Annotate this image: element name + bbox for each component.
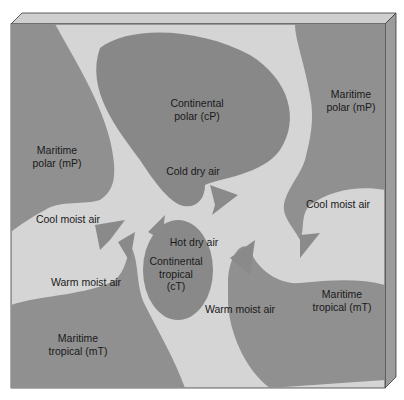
label-line: Maritime xyxy=(313,288,372,301)
label-line: tropical xyxy=(149,268,202,281)
label-line: polar (mP) xyxy=(32,157,81,170)
label-cool-moist-west: Cool moist air xyxy=(36,213,100,226)
label-cold-dry-air: Cold dry air xyxy=(166,165,220,178)
label-line: Cold dry air xyxy=(166,165,220,178)
label-line: Maritime xyxy=(49,332,108,345)
slab-side-face xyxy=(385,13,396,388)
label-mt-east: Maritime tropical (mT) xyxy=(313,288,372,313)
label-line: Cool moist air xyxy=(36,213,100,226)
label-line: Warm moist air xyxy=(51,276,121,289)
label-line: Warm moist air xyxy=(205,303,275,316)
label-warm-moist-west: Warm moist air xyxy=(51,276,121,289)
label-line: Maritime xyxy=(326,88,375,101)
label-line: tropical (mT) xyxy=(49,345,108,358)
label-warm-moist-east: Warm moist air xyxy=(205,303,275,316)
label-line: tropical (mT) xyxy=(313,301,372,314)
slab-top-face xyxy=(11,13,396,24)
label-hot-dry-air: Hot dry air xyxy=(170,236,218,249)
label-line: Continental xyxy=(149,255,202,268)
label-line: polar (cP) xyxy=(170,110,223,123)
label-line: (cT) xyxy=(149,280,202,293)
label-line: Cool moist air xyxy=(306,198,370,211)
label-mp-east: Maritime polar (mP) xyxy=(326,88,375,113)
label-line: Continental xyxy=(170,97,223,110)
label-cp: Continental polar (cP) xyxy=(170,97,223,122)
label-mp-west: Maritime polar (mP) xyxy=(32,144,81,169)
label-line: Hot dry air xyxy=(170,236,218,249)
label-line: polar (mP) xyxy=(326,101,375,114)
label-ct: Continental tropical (cT) xyxy=(149,255,202,293)
label-mt-west: Maritime tropical (mT) xyxy=(49,332,108,357)
label-cool-moist-east: Cool moist air xyxy=(306,198,370,211)
label-line: Maritime xyxy=(32,144,81,157)
